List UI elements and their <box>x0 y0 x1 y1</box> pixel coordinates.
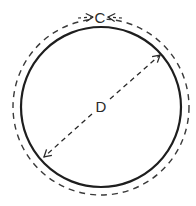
diameter-arrow-upper <box>110 55 160 99</box>
diameter-label: D <box>95 99 108 114</box>
diameter-arrow-lower <box>44 114 92 157</box>
circle-diagram: C D <box>0 0 196 206</box>
circumference-label: C <box>94 10 107 25</box>
circumference-arrow-right <box>108 17 122 18</box>
circumference-arrow-left <box>78 17 93 18</box>
